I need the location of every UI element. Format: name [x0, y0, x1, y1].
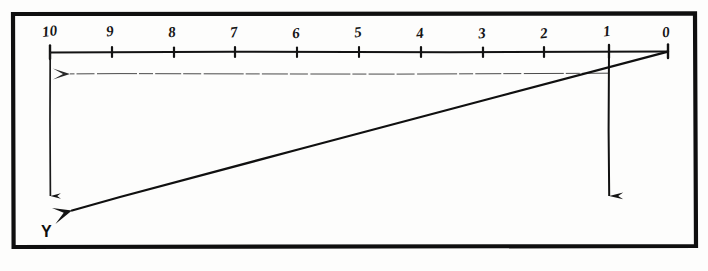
tick-label-8: 8	[167, 25, 176, 41]
figure-canvas	[0, 0, 708, 271]
figure-root: 10 9 8 7 6 5 4 3 2 1 0 Y	[0, 0, 708, 271]
tick-label-4: 4	[415, 26, 424, 42]
tick-label-0: 0	[661, 25, 670, 41]
point-label-y: Y	[41, 224, 52, 240]
figure-frame	[13, 13, 696, 247]
tick-label-6: 6	[291, 26, 300, 42]
tick-label-10: 10	[41, 23, 58, 40]
tick-label-2: 2	[539, 26, 548, 42]
tick-label-7: 7	[229, 25, 238, 41]
tick-label-3: 3	[477, 26, 486, 42]
tick-label-9: 9	[105, 24, 114, 40]
horizontal-scale-axis	[50, 45, 668, 60]
horizontal-projection-line	[70, 73, 608, 74]
tick-label-5: 5	[353, 25, 362, 41]
diagonal-construction-line	[72, 52, 668, 211]
right-vertical-drop-line	[609, 52, 610, 196]
